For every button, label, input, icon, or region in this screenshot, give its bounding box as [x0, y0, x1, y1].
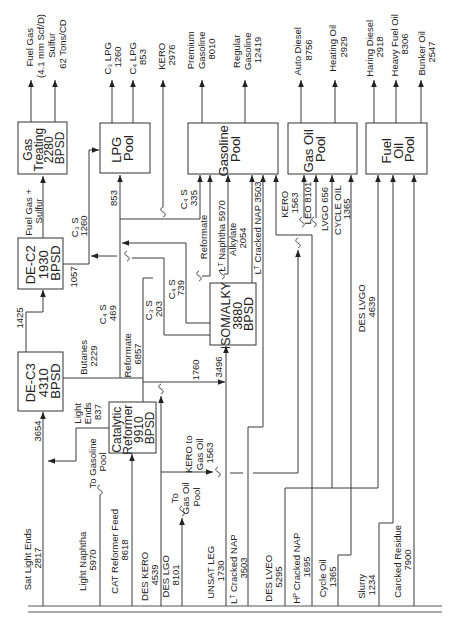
stream-label-1425: 1425 [14, 307, 25, 328]
label-line: BPSD [53, 131, 67, 164]
label-line: Auto Diesel [292, 27, 303, 76]
product-label-sulfur: Sulfur 62 Tons/CD [46, 19, 68, 69]
label-line: Regular [231, 35, 242, 68]
label-line: 2976 [166, 44, 177, 65]
feed-label-cat-reformer-feed: CAT Reformer Feed 8618 [109, 506, 130, 593]
label-line: Gas Oil [180, 482, 191, 514]
feed-label-des-lveo: DES LVEO 5295 [263, 552, 284, 601]
label-line: 2229 [88, 345, 99, 366]
label-line: 1563 [204, 442, 215, 463]
stream-label-kero-to-gas-oil: KERO to Gas Oil 1563 [183, 433, 215, 473]
stream-label-kero-1563: KERO 1563 [279, 188, 300, 218]
product-label-heating-oil: Heating Oil 2929 [327, 22, 349, 72]
label-line: Pool [97, 452, 108, 471]
product-label-auto-diesel: Auto Diesel 8756 [292, 24, 314, 75]
label-line: Fuel Gas [24, 28, 35, 67]
label-line: BPSD [48, 363, 63, 398]
stream-label-3654: 3654 [32, 420, 43, 441]
label-line: 5295 [273, 566, 284, 587]
label-line: 1365 [341, 198, 352, 219]
stream-label-c3s-1260: C₃ S 1260 [69, 215, 89, 237]
label-line: 8618 [119, 539, 130, 560]
product-label-heavy-fuel-oil: Heavy Fuel Oil 8306 [389, 12, 410, 77]
product-label-haring-diesel: Haring Diesel 2918 [364, 17, 385, 77]
label-line: 837 [92, 404, 103, 420]
label-line: Pool [191, 487, 202, 506]
label-line: Reformate [198, 215, 209, 259]
product-label-bunker-oil: Bunker Oil 2547 [416, 29, 437, 76]
product-label-premium-gasoline: Premium Gasoline 8010 [185, 29, 217, 70]
label-line: 335 [188, 190, 199, 206]
label-line: 2547 [426, 41, 437, 62]
stream-label-leo-8101: LEO 8101 [302, 182, 313, 225]
stream-label-lt-cracked-nap-3503: Lᵀ Cracked NAP 3503 [252, 181, 263, 274]
stream-label-reformate-6857: Reformate 6857 [122, 331, 143, 378]
unit-label-lpg-pool: LPG Pool [109, 133, 136, 163]
label-line: Sulfur [46, 33, 57, 58]
label-line: Pool [228, 136, 243, 162]
label-line: 2817 [32, 547, 43, 568]
label-line: Pool [313, 136, 328, 162]
stream-label-c4s-335: C₄ S 335 [178, 187, 199, 209]
label-line: Lᵀ Cracked NAP 3503 [252, 181, 263, 274]
stream-label-3496: 3496 [213, 356, 224, 377]
label-line: 3654 [32, 420, 43, 441]
label-line: 853 [137, 49, 148, 65]
label-line: Sulfur [33, 199, 44, 224]
flow-slurry [379, 175, 393, 606]
label-line: BPSD [143, 411, 157, 444]
feed-label-lt-cracked-nap: Lᵀ Cracked NAP 3503 [228, 532, 249, 604]
label-line: 8306 [399, 33, 410, 54]
stream-label-c3s-203: C₃ S 203 [143, 298, 164, 320]
break-tilde-icon [159, 384, 164, 394]
product-label-regular-gasoline: Regular Gasoline 12419 [231, 30, 263, 70]
flow-reformate [143, 278, 153, 402]
feed-label-unsat-leg: UNSAT LEG 1730 [205, 543, 226, 599]
label-line: 1057 [68, 266, 79, 287]
break-tilde-icon [98, 485, 103, 495]
label-line: 853 [108, 190, 119, 206]
label-line: Premium [185, 31, 196, 69]
label-line: Gasoline [242, 33, 253, 71]
label-line: 739 [175, 280, 186, 296]
stream-label-fuel-gas-sulfur: Fuel Gas + Sulfur [23, 186, 44, 235]
label-line: Pool [402, 136, 417, 162]
label-line: 4639 [366, 296, 377, 317]
label-line: LEO 8101 [302, 182, 313, 225]
stream-label-butanes: Butanes 2229 [78, 337, 99, 375]
feed-label-cycle-oil: Cycle Oil 1365 [317, 557, 338, 598]
stream-label-cycle-oil-1365: CYCLE OIL 1365 [332, 183, 352, 235]
label-line: To [169, 493, 180, 503]
label-line: Pool [121, 135, 136, 161]
refinery-flow-diagram: Gas Treating 2280 BPSD LPG Pool Gasoline… [0, 0, 457, 624]
break-tilde-icon [125, 251, 130, 261]
break-tilde-icon [197, 271, 202, 281]
label-line: 8010 [206, 38, 217, 59]
feed-label-des-lgo: DES LGO 8101 [160, 553, 181, 598]
stream-label-des-lvgo: DES LVGO 4639 [356, 282, 377, 333]
feed-label-slurry: Slurry 1234 [356, 571, 377, 598]
label-line: BPSD [48, 245, 63, 280]
label-line: 1730 [215, 560, 226, 581]
flow-c3s-1260 [63, 150, 99, 264]
feed-label-light-naphtha: Light Naphtha 5970 [77, 529, 98, 591]
label-line: BPSD [242, 297, 256, 331]
stream-label-to-gas-oil-pool: To Gas Oil Pool [169, 480, 202, 514]
label-line: 5970 [87, 549, 98, 570]
product-label-c3-lpg: C₃ LPG 1260 [102, 39, 123, 74]
stream-label-lvgo-656: LVGO 656 [319, 187, 330, 231]
label-line: 1563 [289, 192, 300, 213]
flow-cycle-oil [338, 175, 351, 606]
label-line: Gasoline [196, 32, 207, 70]
label-line: 4539 [149, 564, 160, 585]
label-line: 1260 [78, 215, 89, 236]
label-line: 3503 [238, 557, 249, 578]
break-tilde-icon [296, 238, 301, 248]
label-line: 3496 [213, 356, 224, 377]
label-line: 1425 [14, 307, 25, 328]
stream-label-reformate: Reformate [198, 215, 209, 259]
label-line: 8756 [303, 39, 314, 60]
product-label-c4-lpg: C₄ LPG 853 [127, 39, 148, 74]
unit-label-de-c2: DE-C2 1930 BPSD [23, 242, 63, 285]
stream-label-853: 853 [108, 190, 119, 206]
